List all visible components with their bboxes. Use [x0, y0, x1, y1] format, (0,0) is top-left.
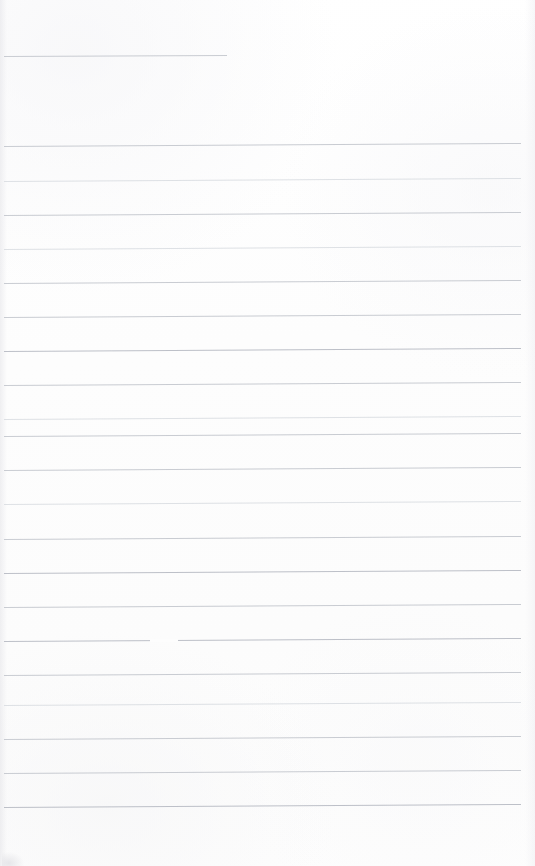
- rule-line: [4, 770, 521, 774]
- rule-line: [4, 702, 521, 706]
- rule-line: [4, 178, 521, 182]
- rule-line: [4, 280, 521, 284]
- rule-line: [4, 433, 521, 437]
- rule-break-artifact: [150, 639, 178, 642]
- rule-line: [4, 536, 521, 540]
- scanned-page: [0, 0, 535, 866]
- rule-line: [4, 246, 521, 250]
- rule-line: [4, 604, 521, 608]
- rule-line: [4, 143, 521, 147]
- rule-line: [4, 382, 521, 386]
- rule-line: [4, 570, 521, 574]
- rule-line: [4, 736, 521, 740]
- rule-line: [4, 804, 521, 808]
- rule-line: [4, 416, 521, 420]
- ruled-lines-layer: [0, 0, 535, 866]
- rule-line: [4, 501, 521, 505]
- short-top-rule: [4, 55, 227, 57]
- rule-line: [4, 467, 521, 471]
- rule-line: [4, 314, 521, 318]
- rule-line: [4, 212, 521, 216]
- rule-line: [4, 638, 521, 642]
- rule-line: [4, 348, 521, 352]
- rule-line: [4, 672, 521, 676]
